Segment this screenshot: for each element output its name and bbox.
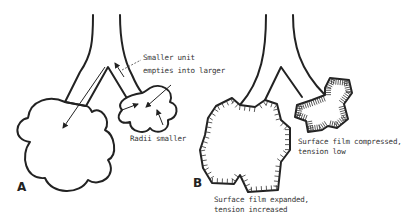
airway-b-left-wall bbox=[240, 15, 266, 105]
panel-label-b: B bbox=[193, 176, 202, 190]
alveoli-diagram: Smaller unit empties into larger Radii s… bbox=[0, 0, 401, 221]
surface-film-tick bbox=[274, 176, 279, 177]
label-tension-increased: tension increased bbox=[214, 205, 287, 214]
airway-b-crotch bbox=[265, 67, 302, 100]
panel-label-a: A bbox=[17, 180, 27, 194]
label-radii-smaller: Radii smaller bbox=[130, 134, 187, 143]
label-film-compressed: Surface film compressed, bbox=[298, 137, 401, 146]
label-empties-into-larger: empties into larger bbox=[143, 66, 226, 75]
surface-film-tick bbox=[276, 166, 281, 167]
panel-b: Surface film compressed, tension low Sur… bbox=[193, 15, 401, 214]
leader-line-smaller-unit bbox=[122, 60, 141, 70]
airway-a-right-wall bbox=[120, 15, 142, 93]
surface-film-tick bbox=[275, 171, 280, 172]
surface-film-tick bbox=[273, 186, 278, 187]
airway-b-right-wall bbox=[293, 15, 325, 95]
label-smaller-unit: Smaller unit bbox=[143, 53, 195, 62]
small-alveolus-a bbox=[119, 86, 177, 132]
large-alveolus-a bbox=[17, 99, 114, 191]
surface-film-tick bbox=[274, 181, 279, 182]
label-film-expanded: Surface film expanded, bbox=[214, 195, 309, 204]
airway-a-left-wall bbox=[65, 15, 93, 102]
label-tension-low: tension low bbox=[298, 147, 346, 156]
panel-a: Smaller unit empties into larger Radii s… bbox=[17, 15, 226, 194]
expanded-alveolus-b bbox=[200, 98, 290, 192]
